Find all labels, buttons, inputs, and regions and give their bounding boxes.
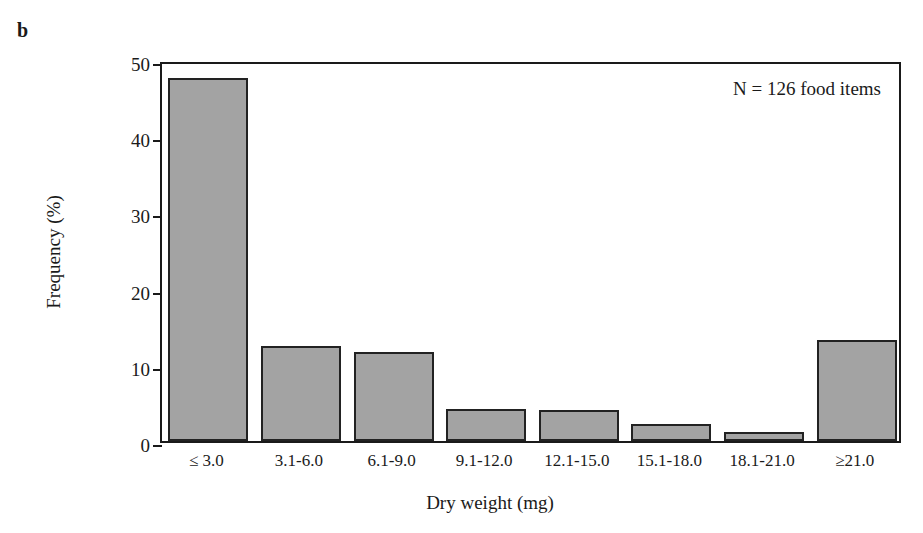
y-axis-tick-label: 30 [131, 207, 150, 226]
x-axis-tick-label: 18.1-21.0 [729, 452, 794, 469]
bar [261, 346, 341, 441]
bar [724, 432, 804, 441]
y-axis-tick-label: 40 [131, 131, 150, 150]
y-axis-title: Frequency (%) [43, 195, 65, 308]
bar [446, 409, 526, 441]
x-axis-tick-label: 3.1-6.0 [275, 452, 323, 469]
y-axis-tick-label: 50 [131, 55, 150, 74]
plot-area: N = 126 food items 01020304050 [160, 62, 901, 443]
y-axis-tick-label: 20 [131, 283, 150, 302]
panel-label: b [17, 20, 28, 40]
x-axis-tick-label: 9.1-12.0 [456, 452, 513, 469]
bar [631, 424, 711, 441]
y-axis-tick-mark [153, 445, 162, 447]
x-axis-tick-label: ≥21.0 [835, 452, 874, 469]
y-axis-tick-label: 0 [141, 436, 151, 455]
bar [354, 352, 434, 441]
y-axis-tick-mark [153, 293, 162, 295]
y-axis-tick-mark [153, 140, 162, 142]
x-axis-title: Dry weight (mg) [426, 492, 554, 514]
y-axis-tick-label: 10 [131, 359, 150, 378]
x-axis-tick-label: 12.1-15.0 [544, 452, 609, 469]
y-axis-tick-mark [153, 64, 162, 66]
bar [168, 78, 248, 441]
bar [539, 410, 619, 441]
y-axis-tick-mark [153, 216, 162, 218]
x-axis-tick-label: ≤ 3.0 [189, 452, 224, 469]
bar [817, 340, 897, 441]
figure-panel-b: b Frequency (%) Dry weight (mg) N = 126 … [0, 0, 923, 533]
x-axis-tick-label: 15.1-18.0 [637, 452, 702, 469]
bar-series [162, 64, 899, 441]
y-axis-tick-mark [153, 369, 162, 371]
x-axis-tick-label: 6.1-9.0 [367, 452, 415, 469]
